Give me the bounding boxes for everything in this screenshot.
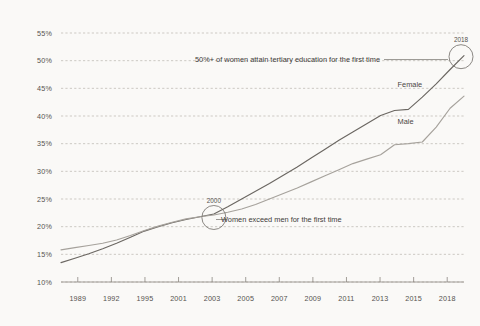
y-axis-tick-label: 25%	[37, 195, 52, 204]
x-axis-tick-label: 2011	[338, 294, 354, 303]
y-axis-tick-label: 20%	[37, 222, 52, 231]
x-axis-tick-label: 2015	[405, 294, 422, 303]
chart-canvas: 10%15%20%25%30%35%40%45%50%55%1989199219…	[0, 0, 480, 326]
x-axis-tick-label: 2003	[204, 294, 221, 303]
x-axis-tick-label: 2013	[372, 294, 389, 303]
annotation-text-women-tertiary: 50%+ of women attain tertiary education …	[195, 55, 380, 64]
y-axis-tick-label: 15%	[37, 250, 52, 259]
point-label-2018: 2018	[454, 36, 469, 43]
series-label-male: Male	[398, 117, 414, 126]
x-axis-tick-label: 1995	[137, 294, 154, 303]
series-label-female: Female	[398, 80, 423, 89]
x-axis-tick-label: 1989	[69, 294, 86, 303]
y-axis-tick-label: 10%	[37, 278, 52, 287]
x-axis-tick-label: 2001	[170, 294, 187, 303]
x-axis-tick-label: 2007	[271, 294, 288, 303]
x-axis-tick-label: 2009	[304, 294, 321, 303]
y-axis-tick-label: 40%	[37, 112, 52, 121]
line-chart: 10%15%20%25%30%35%40%45%50%55%1989199219…	[0, 0, 480, 326]
x-axis-tick-label: 1992	[103, 294, 120, 303]
annotation-text-crossover: Women exceed men for the first time	[221, 215, 342, 224]
x-axis-tick-label: 2005	[237, 294, 254, 303]
y-axis-tick-label: 50%	[37, 56, 52, 65]
x-axis-tick-label: 2018	[439, 294, 456, 303]
y-axis-tick-label: 35%	[37, 139, 52, 148]
y-axis-tick-label: 30%	[37, 167, 52, 176]
y-axis-tick-label: 45%	[37, 84, 52, 93]
callout-circle-2018	[449, 45, 473, 69]
y-axis-tick-label: 55%	[37, 29, 52, 38]
point-label-2000: 2000	[207, 197, 222, 204]
